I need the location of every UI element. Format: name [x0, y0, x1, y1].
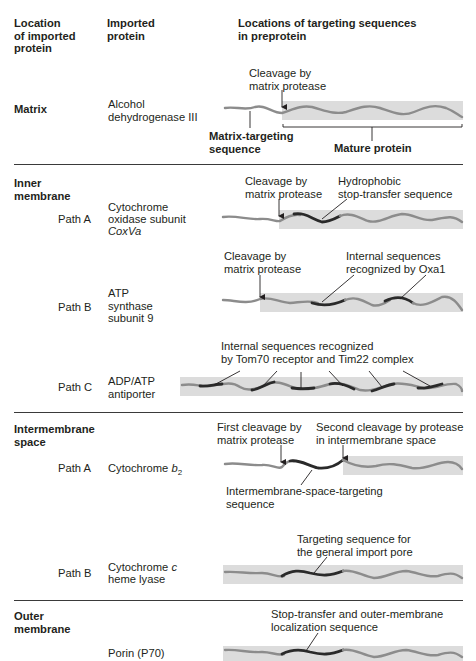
bracket-mature-protein	[283, 124, 462, 127]
chain-outer	[225, 650, 462, 657]
chain-ims-b	[225, 571, 462, 578]
chain-matrix	[225, 106, 462, 117]
leader-ims-targeting	[301, 470, 312, 485]
chain-ims-a	[225, 460, 462, 469]
leader-oxa1-2	[400, 275, 426, 299]
leader-tom70-5	[369, 371, 382, 387]
chain-inner-a	[223, 214, 462, 222]
diagram-chains	[0, 0, 476, 661]
chain-inner-b	[223, 297, 462, 310]
leader-outer-stop-transfer	[306, 633, 318, 651]
leader-general-import-pore	[314, 557, 327, 573]
chain-inner-c	[182, 382, 462, 391]
